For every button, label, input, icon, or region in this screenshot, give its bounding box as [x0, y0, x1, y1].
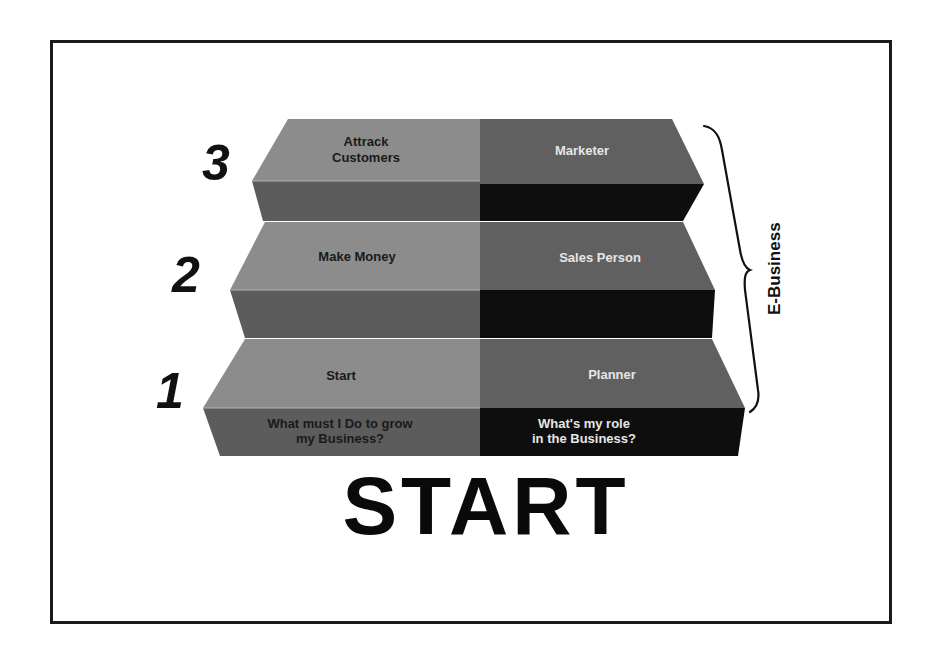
step-2: Make Money Sales Person 2 — [171, 222, 715, 338]
step-2-number: 2 — [171, 247, 200, 303]
start-title: START — [342, 460, 629, 551]
step-3-right-front-face — [480, 184, 704, 221]
step-3-number: 3 — [202, 135, 230, 191]
step-2-right-label: Sales Person — [559, 250, 641, 265]
step-2-left-front-face — [230, 290, 480, 338]
step-3: Attrack Customers Marketer 3 — [202, 119, 704, 221]
step-1: Start Planner What must I Do to grow my … — [156, 339, 745, 456]
step-3-left-front-face — [252, 181, 480, 221]
step-1-right-front-line2: in the Business? — [532, 431, 636, 446]
step-1-left-label: Start — [326, 368, 356, 383]
step-1-right-front-line1: What's my role — [538, 416, 630, 431]
e-business-label: E-Business — [765, 222, 784, 315]
step-1-left-front-line2: my Business? — [296, 431, 384, 446]
step-3-right-label: Marketer — [555, 143, 609, 158]
step-1-left-front-line1: What must I Do to grow — [267, 416, 413, 431]
step-3-left-label-line2: Customers — [332, 150, 400, 165]
step-3-left-label-line1: Attrack — [344, 134, 390, 149]
staircase-diagram: Attrack Customers Marketer 3 Make Money … — [0, 0, 936, 665]
step-2-right-front-face — [480, 290, 715, 338]
step-1-number: 1 — [156, 363, 184, 419]
step-2-left-label: Make Money — [318, 249, 396, 264]
step-1-right-label: Planner — [588, 367, 636, 382]
